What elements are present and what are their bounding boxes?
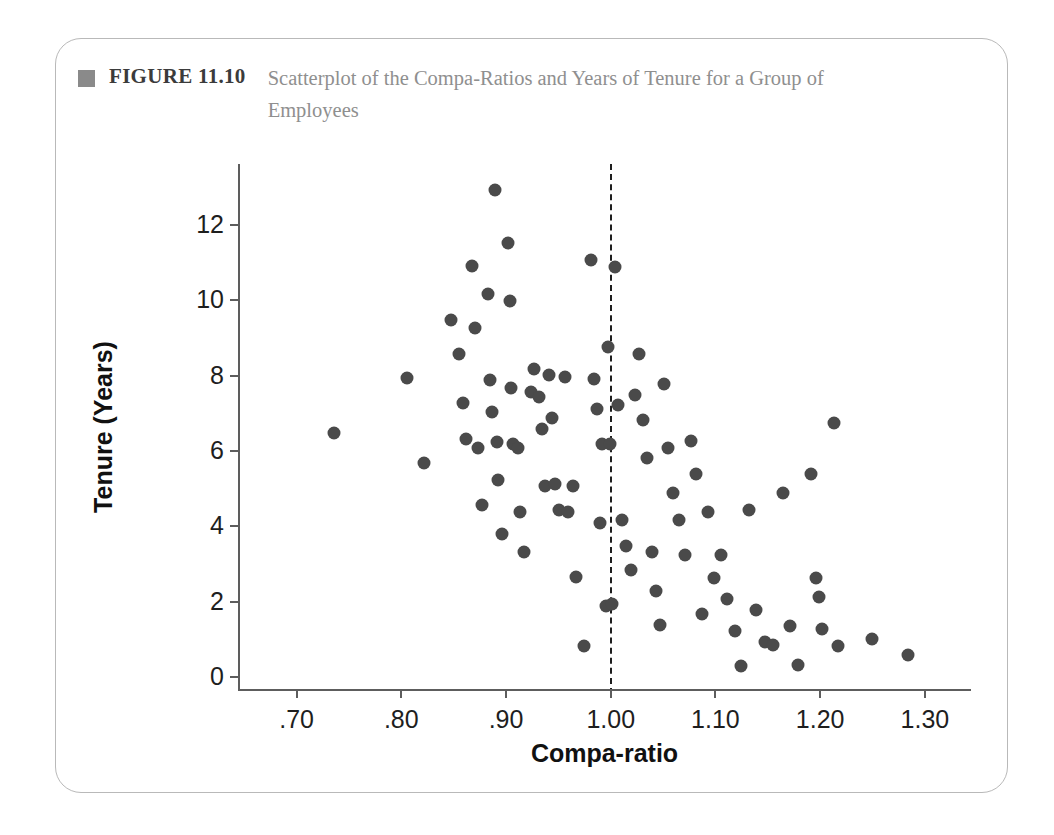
y-tick-mark bbox=[230, 375, 239, 377]
data-point bbox=[546, 412, 559, 425]
data-point bbox=[570, 571, 583, 584]
x-tick-mark bbox=[924, 689, 926, 698]
data-point bbox=[588, 372, 601, 385]
reference-line-compa-ratio-1 bbox=[610, 164, 612, 694]
x-tick-mark bbox=[610, 689, 612, 698]
data-point bbox=[865, 632, 878, 645]
data-point bbox=[528, 363, 541, 376]
y-axis-title: Tenure (Years) bbox=[89, 341, 118, 513]
data-point bbox=[605, 598, 618, 611]
data-point bbox=[505, 381, 518, 394]
data-point bbox=[484, 374, 497, 387]
data-point bbox=[628, 389, 641, 402]
data-point bbox=[535, 423, 548, 436]
x-tick-label: 1.10 bbox=[691, 705, 740, 734]
y-tick-6: 6 bbox=[230, 450, 239, 452]
x-tick-label: .90 bbox=[489, 705, 524, 734]
x-axis-line bbox=[238, 689, 971, 691]
y-tick-mark bbox=[230, 224, 239, 226]
x-tick-1.00: 1.00 bbox=[610, 689, 612, 698]
data-point bbox=[649, 585, 662, 598]
y-tick-mark bbox=[230, 676, 239, 678]
data-point bbox=[620, 539, 633, 552]
y-tick-mark bbox=[230, 601, 239, 603]
data-point bbox=[729, 624, 742, 637]
data-point bbox=[662, 442, 675, 455]
y-tick-mark bbox=[230, 450, 239, 452]
data-point bbox=[902, 649, 915, 662]
x-tick-label: .70 bbox=[279, 705, 314, 734]
y-axis-line bbox=[238, 164, 240, 691]
data-point bbox=[743, 504, 756, 517]
data-point bbox=[816, 622, 829, 635]
data-point bbox=[666, 487, 679, 500]
data-point bbox=[608, 261, 621, 274]
data-point bbox=[418, 457, 431, 470]
data-point bbox=[482, 287, 495, 300]
data-point bbox=[689, 468, 702, 481]
data-point bbox=[810, 571, 823, 584]
data-point bbox=[543, 368, 556, 381]
y-tick-label: 0 bbox=[210, 661, 224, 690]
data-point bbox=[672, 513, 685, 526]
data-point bbox=[601, 340, 614, 353]
x-tick-.80: .80 bbox=[400, 689, 402, 698]
data-point bbox=[708, 571, 721, 584]
data-point bbox=[488, 184, 501, 197]
data-point bbox=[549, 477, 562, 490]
data-point bbox=[502, 237, 515, 250]
data-point bbox=[400, 371, 413, 384]
data-point bbox=[603, 438, 616, 451]
data-point bbox=[767, 638, 780, 651]
data-point bbox=[685, 434, 698, 447]
data-point bbox=[511, 442, 524, 455]
data-point bbox=[721, 592, 734, 605]
x-tick-1.20: 1.20 bbox=[819, 689, 821, 698]
data-point bbox=[471, 442, 484, 455]
data-point bbox=[486, 406, 499, 419]
x-tick-1.10: 1.10 bbox=[714, 689, 716, 698]
data-point bbox=[504, 295, 517, 308]
y-tick-12: 12 bbox=[230, 224, 239, 226]
y-tick-2: 2 bbox=[230, 601, 239, 603]
x-tick-mark bbox=[819, 689, 821, 698]
data-point bbox=[702, 506, 715, 519]
x-tick-label: 1.00 bbox=[586, 705, 635, 734]
y-tick-8: 8 bbox=[230, 375, 239, 377]
data-point bbox=[658, 378, 671, 391]
x-tick-.90: .90 bbox=[505, 689, 507, 698]
data-point bbox=[624, 564, 637, 577]
data-point bbox=[641, 451, 654, 464]
data-point bbox=[783, 620, 796, 633]
data-point bbox=[591, 402, 604, 415]
data-point bbox=[645, 545, 658, 558]
x-tick-mark bbox=[296, 689, 298, 698]
data-point bbox=[714, 549, 727, 562]
y-tick-label: 6 bbox=[210, 436, 224, 465]
data-point bbox=[734, 660, 747, 673]
y-tick-label: 12 bbox=[196, 210, 224, 239]
data-point bbox=[695, 607, 708, 620]
x-axis-title: Compa-ratio bbox=[238, 739, 971, 768]
y-tick-10: 10 bbox=[230, 299, 239, 301]
y-tick-0: 0 bbox=[230, 676, 239, 678]
data-point bbox=[468, 321, 481, 334]
data-point bbox=[827, 416, 840, 429]
x-tick-label: .80 bbox=[384, 705, 419, 734]
data-point bbox=[653, 619, 666, 632]
data-point bbox=[616, 513, 629, 526]
data-point bbox=[561, 506, 574, 519]
data-point bbox=[491, 474, 504, 487]
x-tick-1.30: 1.30 bbox=[924, 689, 926, 698]
x-tick-mark bbox=[400, 689, 402, 698]
y-tick-label: 10 bbox=[196, 285, 224, 314]
data-point bbox=[495, 527, 508, 540]
data-point bbox=[444, 314, 457, 327]
data-point bbox=[804, 468, 817, 481]
x-tick-mark bbox=[505, 689, 507, 698]
x-tick-mark bbox=[714, 689, 716, 698]
scatter-plot: 024681012 .70.80.901.001.101.201.30 Comp… bbox=[56, 39, 1009, 794]
data-point bbox=[532, 391, 545, 404]
data-point bbox=[594, 517, 607, 530]
data-point bbox=[750, 603, 763, 616]
